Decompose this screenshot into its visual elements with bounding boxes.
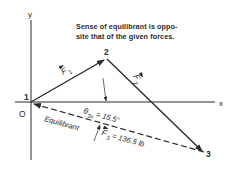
f1-label: F 1 [59,63,74,78]
point-1-label: 1 [24,92,29,102]
equilibrant-label: Equilibrant [43,114,80,132]
angle-pointer-arrow [103,78,106,101]
point-2-label: 2 [104,47,109,57]
svg-text:3: 3 [106,135,111,142]
note-line-1: Sense of equilibrant is oppo- [76,22,226,32]
x-axis-label: x [219,99,223,108]
equilibrant-pointer-arrow [94,125,100,141]
y-axis-label: y [28,10,32,19]
angle-label: θ 3x = 15.5° [82,106,121,127]
svg-text:1: 1 [67,68,73,75]
svg-text:Equilibrant: Equilibrant [43,114,80,132]
origin-label: O [19,109,26,119]
equilibrant-note: Sense of equilibrant is oppo- site that … [76,22,226,42]
force-polygon-diagram: y x O 1 2 3 F 1 F 2 θ 3x = 15.5° Equilib… [0,0,233,171]
point-3-label: 3 [206,149,211,159]
note-line-2: site that of the given forces. [76,32,226,42]
vector-f1 [31,60,104,102]
f3-label: F 3 = 136.5 lb [100,127,146,150]
f2-label: F 2 [129,72,144,86]
